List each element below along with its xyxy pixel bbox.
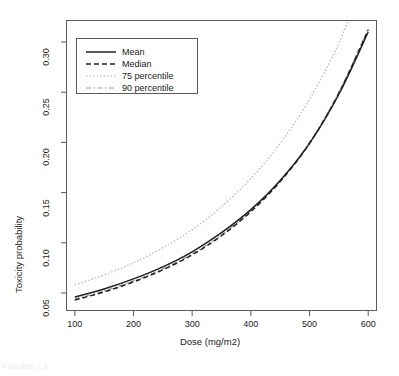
x-tick-label: 400	[231, 319, 271, 329]
legend: MeanMedian75 percentile90 percentile	[76, 38, 198, 94]
legend-key-90-percentile	[85, 81, 117, 95]
y-tick-label: 0.10	[41, 241, 51, 275]
y-tick-label: 0.20	[41, 140, 51, 174]
y-tick-label: 0.30	[41, 40, 51, 74]
x-tick-label: 300	[172, 319, 212, 329]
x-tick-label: 100	[55, 319, 95, 329]
y-axis-label: Toxicity probability	[13, 164, 24, 344]
y-tick-label: 0.05	[41, 291, 51, 325]
legend-label: 90 percentile	[122, 81, 174, 95]
x-tick-label: 200	[113, 319, 153, 329]
x-tick-label: 600	[348, 319, 388, 329]
legend-item: 90 percentile	[77, 81, 199, 95]
y-tick-label: 0.15	[41, 191, 51, 225]
y-tick-label: 0.25	[41, 90, 51, 124]
figure-container: Toxicity probability Dose (mg/m2) 0.050.…	[0, 0, 399, 376]
x-tick-label: 500	[290, 319, 330, 329]
figure-caption: FIGURE 7.1	[2, 362, 49, 371]
x-axis-label: Dose (mg/m2)	[110, 336, 310, 347]
